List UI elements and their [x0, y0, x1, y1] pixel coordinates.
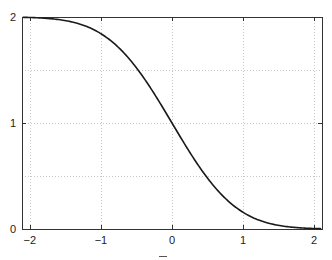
x-tick-label: 0 — [169, 234, 175, 246]
y-tick-label: 1 — [10, 117, 16, 129]
x-tick-label: −1 — [95, 234, 108, 246]
x-axis-tick-labels: −2−1012 — [24, 234, 318, 246]
cut-off-axis-label-fragment — [159, 256, 167, 257]
y-tick-label: 2 — [10, 11, 16, 23]
x-tick-label: 2 — [311, 234, 317, 246]
line-chart: −2−1012 012 — [0, 0, 332, 260]
y-tick-label: 0 — [10, 223, 16, 235]
x-tick-label: 1 — [240, 234, 246, 246]
x-tick-label: −2 — [24, 234, 37, 246]
data-line-erfc — [23, 17, 322, 228]
y-axis-tick-labels: 012 — [10, 11, 16, 235]
